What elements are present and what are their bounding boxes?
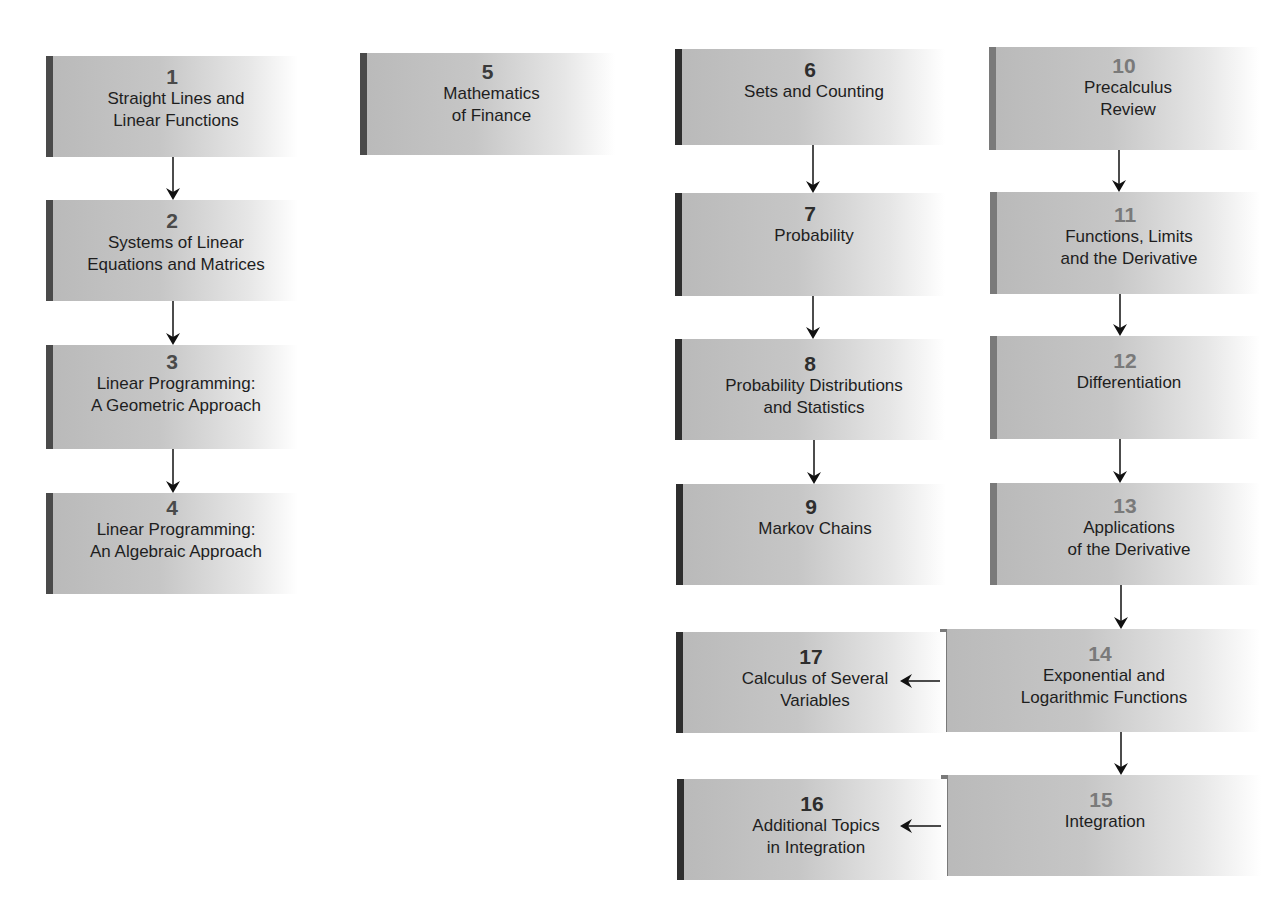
accent-bar bbox=[990, 483, 997, 585]
accent-bar bbox=[675, 339, 682, 440]
chapter-title-line1: Probability bbox=[675, 225, 945, 247]
chapter-node-14: 14 Exponential and Logarithmic Functions bbox=[940, 629, 1260, 732]
chapter-title-line1: Probability Distributions bbox=[675, 375, 945, 397]
accent-bar bbox=[989, 47, 996, 150]
chapter-title-line2: A Geometric Approach bbox=[46, 395, 298, 417]
chapter-title-line2: Linear Functions bbox=[46, 110, 298, 132]
chapter-number: 9 bbox=[676, 496, 946, 518]
chapter-title-line1: Mathematics bbox=[360, 83, 615, 105]
chapter-number: 17 bbox=[676, 646, 946, 668]
chapter-title-line1: Systems of Linear bbox=[46, 232, 298, 254]
chapter-title-line2: Variables bbox=[676, 690, 946, 712]
chapter-node-11: 11 Functions, Limits and the Derivative bbox=[990, 192, 1260, 294]
chapter-node-12: 12 Differentiation bbox=[990, 336, 1260, 439]
chapter-number: 1 bbox=[46, 66, 298, 88]
chapter-number: 2 bbox=[46, 210, 298, 232]
chapter-title-line2: in Integration bbox=[677, 837, 947, 859]
chapter-node-7: 7 Probability bbox=[675, 193, 945, 296]
chapter-number: 5 bbox=[360, 61, 615, 83]
chapter-node-6: 6 Sets and Counting bbox=[675, 49, 945, 145]
chapter-node-15: 15 Integration bbox=[941, 775, 1261, 876]
chapter-title-line1: Functions, Limits bbox=[990, 226, 1260, 248]
accent-bar bbox=[46, 200, 53, 301]
chapter-number: 4 bbox=[46, 497, 298, 519]
chapter-number: 10 bbox=[989, 55, 1259, 77]
accent-bar bbox=[360, 53, 367, 155]
chapter-node-8: 8 Probability Distributions and Statisti… bbox=[675, 339, 945, 440]
chapter-title-line2: and the Derivative bbox=[990, 248, 1260, 270]
chapter-title-line1: Markov Chains bbox=[676, 518, 946, 540]
chapter-number: 16 bbox=[677, 793, 947, 815]
accent-bar bbox=[675, 49, 682, 145]
chapter-number: 3 bbox=[46, 351, 298, 373]
accent-bar bbox=[676, 484, 683, 585]
chapter-title-line1: Differentiation bbox=[990, 372, 1260, 394]
chapter-number: 8 bbox=[675, 353, 945, 375]
accent-bar bbox=[46, 345, 53, 449]
chapter-title-line2: Equations and Matrices bbox=[46, 254, 298, 276]
chapter-title-line1: Linear Programming: bbox=[46, 373, 298, 395]
chapter-number: 13 bbox=[990, 495, 1260, 517]
accent-bar bbox=[990, 336, 997, 439]
chapter-title-line1: Sets and Counting bbox=[675, 81, 945, 103]
chapter-title-line1: Additional Topics bbox=[677, 815, 947, 837]
chapter-title-line1: Calculus of Several bbox=[676, 668, 946, 690]
chapter-node-5: 5 Mathematics of Finance bbox=[360, 53, 615, 155]
chapter-number: 12 bbox=[990, 350, 1260, 372]
chapter-title-line2: of the Derivative bbox=[990, 539, 1260, 561]
accent-bar bbox=[46, 56, 53, 157]
accent-bar bbox=[990, 192, 997, 294]
chapter-node-1: 1 Straight Lines and Linear Functions bbox=[46, 56, 298, 157]
chapter-title-line2: An Algebraic Approach bbox=[46, 541, 298, 563]
chapter-node-10: 10 Precalculus Review bbox=[989, 47, 1259, 150]
chapter-title-line1: Exponential and bbox=[940, 665, 1260, 687]
chapter-node-3: 3 Linear Programming: A Geometric Approa… bbox=[46, 345, 298, 449]
chapter-number: 14 bbox=[940, 643, 1260, 665]
accent-bar bbox=[676, 632, 683, 733]
chapter-node-16: 16 Additional Topics in Integration bbox=[677, 779, 947, 880]
chapter-node-9: 9 Markov Chains bbox=[676, 484, 946, 585]
chapter-title-line2: Review bbox=[989, 99, 1259, 121]
chapter-node-2: 2 Systems of Linear Equations and Matric… bbox=[46, 200, 298, 301]
chapter-title-line2: of Finance bbox=[360, 105, 615, 127]
chapter-title-line1: Linear Programming: bbox=[46, 519, 298, 541]
accent-bar bbox=[677, 779, 684, 880]
chapter-node-13: 13 Applications of the Derivative bbox=[990, 483, 1260, 585]
chapter-number: 6 bbox=[675, 59, 945, 81]
chapter-title-line2: Logarithmic Functions bbox=[940, 687, 1260, 709]
chapter-number: 15 bbox=[941, 789, 1261, 811]
accent-bar bbox=[675, 193, 682, 296]
chapter-title-line2: and Statistics bbox=[675, 397, 945, 419]
chapter-title-line1: Straight Lines and bbox=[46, 88, 298, 110]
accent-bar bbox=[46, 493, 53, 594]
chapter-node-17: 17 Calculus of Several Variables bbox=[676, 632, 946, 733]
chapter-number: 7 bbox=[675, 203, 945, 225]
chapter-title-line1: Precalculus bbox=[989, 77, 1259, 99]
chapter-number: 11 bbox=[990, 204, 1260, 226]
chapter-title-line1: Integration bbox=[941, 811, 1261, 833]
chapter-node-4: 4 Linear Programming: An Algebraic Appro… bbox=[46, 493, 298, 594]
chapter-title-line1: Applications bbox=[990, 517, 1260, 539]
